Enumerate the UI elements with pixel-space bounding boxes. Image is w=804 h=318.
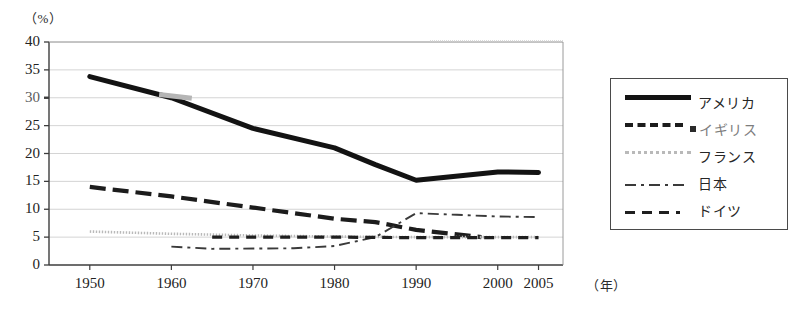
- legend: アメリカイギリスフランス日本ドイツ: [610, 78, 788, 230]
- legend-item-アメリカ[interactable]: アメリカ: [611, 88, 787, 115]
- series-lines: [90, 77, 539, 249]
- legend-item-ドイツ[interactable]: ドイツ: [611, 196, 787, 223]
- legend-uk-point-marker: [690, 126, 696, 132]
- legend-label: アメリカ: [698, 92, 755, 112]
- legend-label: ドイツ: [698, 200, 742, 220]
- legend-label: フランス: [698, 146, 756, 166]
- dashed-medium-swatch: [625, 211, 691, 214]
- chart-container: （%） （年） 0510152025303540 195019601970198…: [0, 0, 804, 318]
- legend-item-フランス[interactable]: フランス: [611, 142, 787, 169]
- legend-item-イギリス[interactable]: イギリス: [611, 115, 787, 142]
- series-line-0: [90, 77, 539, 181]
- dotted-light-swatch: [625, 151, 691, 166]
- series-line-1: [90, 187, 482, 237]
- legend-label: 日本: [698, 173, 727, 193]
- legend-item-日本[interactable]: 日本: [611, 169, 787, 196]
- dash-dot-swatch: [625, 184, 691, 186]
- dashed-thick-swatch: [625, 123, 683, 139]
- legend-label: イギリス: [699, 119, 757, 139]
- solid-thick-swatch: [625, 95, 691, 112]
